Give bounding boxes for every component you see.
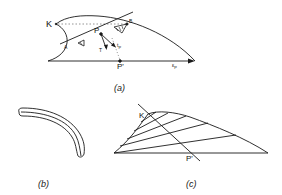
caption-b: (b) [38, 180, 49, 189]
triangle-b-hatch-3 [122, 26, 123, 29]
label-k-a: K [46, 20, 52, 29]
curved-band-centerline [21, 112, 81, 156]
point-b [126, 23, 128, 25]
point-k [55, 23, 57, 25]
label-p-prime-c: P' [186, 155, 193, 163]
triangle-b-icon [114, 24, 127, 33]
diagram-canvas [0, 0, 282, 195]
triangle-b-hatch-2 [119, 27, 121, 31]
ray-2 [120, 123, 208, 146]
label-p-prime-a: P' [117, 63, 124, 71]
label-ep-sub: P [174, 65, 177, 70]
label-b: B [129, 19, 132, 24]
label-p: P [94, 27, 99, 35]
label-tp: tP [117, 43, 121, 50]
label-ep: εP [172, 63, 177, 70]
figure-b [19, 108, 85, 157]
caption-c: (c) [186, 180, 197, 189]
vector-t-arrow-icon [104, 45, 108, 51]
label-tp-sub: P [118, 45, 121, 50]
upper-curve-c [148, 112, 268, 153]
label-t: T [99, 48, 102, 53]
caption-a: (a) [114, 84, 125, 93]
figure-c [114, 104, 268, 161]
label-k-c: K [139, 112, 144, 120]
point-p [100, 33, 103, 36]
curved-band-outline [19, 108, 85, 157]
vector-tp-arrow-icon [111, 43, 116, 48]
upper-boundary-curve [56, 16, 195, 61]
figure-a [48, 12, 195, 64]
label-a: A [64, 45, 67, 50]
